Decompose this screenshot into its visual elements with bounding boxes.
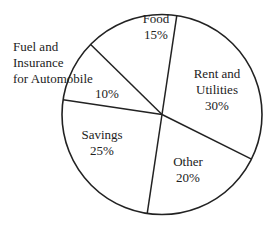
slice-label-other: Other 20% xyxy=(160,154,216,186)
slice-label-savings: Savings 25% xyxy=(74,127,130,159)
fuel-label-line2: Insurance xyxy=(13,55,93,71)
rent-label-line2: Utilities xyxy=(182,82,252,98)
slice-boundary-fuel-food xyxy=(91,44,162,114)
savings-label: Savings xyxy=(74,127,130,143)
rent-label-line1: Rent and xyxy=(182,66,252,82)
fuel-label-line1: Fuel and xyxy=(13,39,93,55)
slice-label-food: Food 15% xyxy=(128,11,184,43)
other-label: Other xyxy=(160,154,216,170)
fuel-label-line3: for Automobile xyxy=(13,71,93,87)
rent-value: 30% xyxy=(182,98,252,114)
other-value: 20% xyxy=(160,170,216,186)
slice-boundary-rent-other xyxy=(162,115,251,160)
slice-label-rent: Rent and Utilities 30% xyxy=(182,66,252,114)
fuel-value: 10% xyxy=(90,86,124,102)
food-value: 15% xyxy=(128,27,184,43)
slice-label-fuel: Fuel and Insurance for Automobile xyxy=(13,39,93,87)
food-label: Food xyxy=(128,11,184,27)
savings-value: 25% xyxy=(74,143,130,159)
